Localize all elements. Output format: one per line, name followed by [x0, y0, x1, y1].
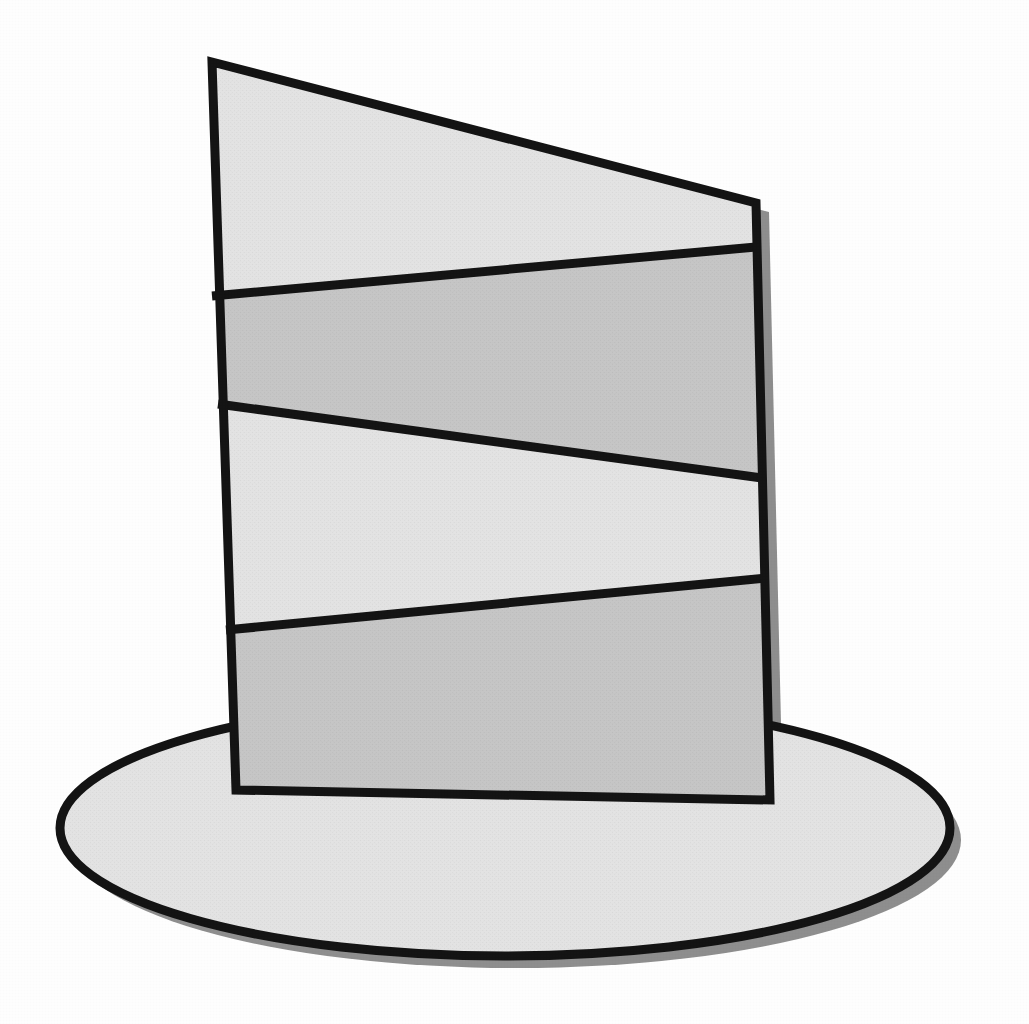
- figure-root: Banded vertical panel standing on an ell…: [0, 0, 1029, 1024]
- panel-bands-group: [200, 50, 782, 816]
- illustration-canvas: [0, 0, 1029, 1024]
- panel-texture: [200, 50, 782, 816]
